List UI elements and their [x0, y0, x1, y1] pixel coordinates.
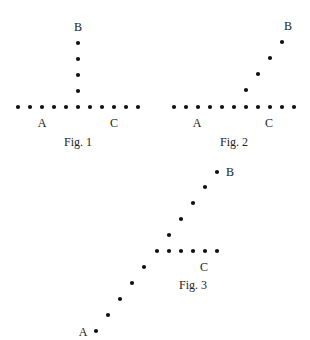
- point-label-a: A: [38, 116, 47, 130]
- dot: [179, 249, 183, 253]
- dot: [215, 170, 219, 174]
- point-label-c: C: [265, 116, 273, 130]
- dot: [215, 249, 219, 253]
- dot: [292, 105, 296, 109]
- point-label-b: B: [74, 20, 82, 34]
- dot: [268, 56, 272, 60]
- dot: [256, 72, 260, 76]
- dot: [191, 249, 195, 253]
- dot: [208, 105, 212, 109]
- dot: [130, 281, 134, 285]
- dot: [220, 105, 224, 109]
- dot: [16, 105, 20, 109]
- dot: [76, 105, 80, 109]
- dot: [280, 40, 284, 44]
- dot: [203, 249, 207, 253]
- dot: [106, 313, 110, 317]
- dot: [196, 105, 200, 109]
- figure-caption: Fig. 2: [220, 135, 248, 149]
- dot: [40, 105, 44, 109]
- point-label-c: C: [110, 116, 118, 130]
- figure-caption: Fig. 1: [64, 135, 92, 149]
- dot: [244, 105, 248, 109]
- dot: [256, 105, 260, 109]
- fig3: BACFig. 3: [79, 165, 234, 339]
- dot: [88, 105, 92, 109]
- figure-caption: Fig. 3: [179, 278, 207, 292]
- dot: [179, 217, 183, 221]
- dot: [142, 265, 146, 269]
- dot: [76, 41, 80, 45]
- point-label-b: B: [284, 19, 292, 33]
- point-label-c: C: [200, 260, 208, 274]
- dot: [28, 105, 32, 109]
- point-label-b: B: [226, 165, 234, 179]
- dot: [232, 105, 236, 109]
- dot-figures: BACFig. 1BACFig. 2BACFig. 3: [0, 0, 310, 340]
- dot: [124, 105, 128, 109]
- dot: [112, 105, 116, 109]
- dot: [94, 329, 98, 333]
- dot: [167, 233, 171, 237]
- dot: [203, 185, 207, 189]
- dot: [244, 88, 248, 92]
- dot: [118, 297, 122, 301]
- dot: [167, 249, 171, 253]
- dot: [268, 105, 272, 109]
- dot: [172, 105, 176, 109]
- dot: [64, 105, 68, 109]
- point-label-a: A: [193, 116, 202, 130]
- dot: [76, 89, 80, 93]
- dot: [155, 249, 159, 253]
- diagram-canvas: BACFig. 1BACFig. 2BACFig. 3: [0, 0, 310, 340]
- dot: [136, 105, 140, 109]
- point-label-a: A: [79, 325, 88, 339]
- dot: [52, 105, 56, 109]
- dot: [76, 57, 80, 61]
- dot: [76, 73, 80, 77]
- fig1: BACFig. 1: [16, 20, 140, 149]
- dot: [191, 201, 195, 205]
- fig2: BACFig. 2: [172, 19, 296, 149]
- dot: [100, 105, 104, 109]
- dot: [184, 105, 188, 109]
- dot: [280, 105, 284, 109]
